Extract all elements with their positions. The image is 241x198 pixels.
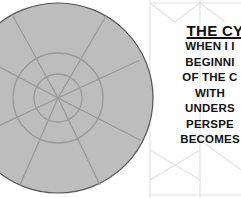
- quote-line-7: BECOMES: [150, 132, 241, 148]
- quote-line-5: UNDERS: [150, 101, 241, 117]
- quote-line-2: BEGINNI: [150, 55, 241, 71]
- quote-line-6: PERSPE: [150, 117, 241, 133]
- quote-title: THE CY: [160, 22, 241, 39]
- quote-text-block: THE CY WHEN I I BEGINNI OF THE C WITH UN…: [150, 22, 241, 148]
- quote-line-4: WITH: [150, 86, 241, 102]
- quote-line-1: WHEN I I: [150, 39, 241, 55]
- quote-line-3: OF THE C: [150, 70, 241, 86]
